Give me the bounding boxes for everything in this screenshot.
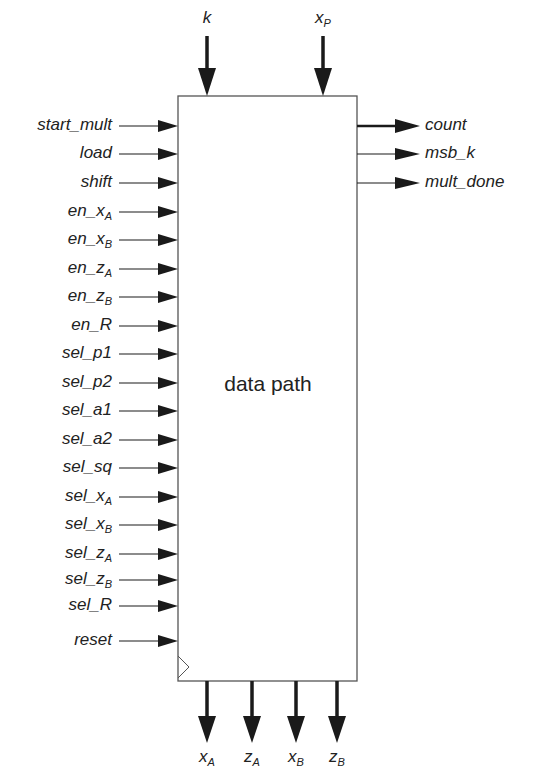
output-label: mult_done xyxy=(425,172,504,192)
arrow-down-icon xyxy=(198,716,216,743)
input-label: en_zB xyxy=(0,286,112,311)
arrow-right-icon xyxy=(158,462,178,474)
arrow-down-icon xyxy=(314,68,332,96)
arrow-right-icon xyxy=(158,600,178,612)
arrow-right-icon xyxy=(158,263,178,275)
input-label: load xyxy=(0,143,112,163)
arrow-right-icon xyxy=(395,148,420,160)
signal-name: start_mult xyxy=(37,115,112,134)
input-label: shift xyxy=(0,172,112,192)
signal-name: reset xyxy=(74,630,112,649)
arrow-right-icon xyxy=(158,574,178,586)
arrow-right-icon xyxy=(158,177,178,189)
input-label: reset xyxy=(0,630,112,650)
signal-name: x xyxy=(315,8,324,27)
signal-subscript: A xyxy=(105,495,112,507)
signal-name: z xyxy=(329,747,338,766)
signal-name: en_z xyxy=(68,286,105,305)
arrow-right-icon xyxy=(158,291,178,303)
signal-name: load xyxy=(80,143,112,162)
arrow-down-icon xyxy=(287,716,305,743)
arrow-right-icon xyxy=(158,519,178,531)
block-title: data path xyxy=(178,372,358,396)
input-label: sel_xB xyxy=(0,514,112,539)
arrow-down-icon xyxy=(243,716,261,743)
signal-name: sel_p2 xyxy=(62,372,112,391)
input-label: sel_zA xyxy=(0,543,112,568)
signal-name: sel_a2 xyxy=(62,429,112,448)
signal-name: count xyxy=(425,115,467,134)
input-label: sel_p2 xyxy=(0,372,112,392)
signal-name: en_x xyxy=(68,229,105,248)
arrow-down-icon xyxy=(198,68,216,96)
input-label: en_xB xyxy=(0,229,112,254)
output-label: msb_k xyxy=(425,143,475,163)
input-label: sel_a1 xyxy=(0,400,112,420)
input-label: sel_zB xyxy=(0,569,112,594)
input-label: sel_p1 xyxy=(0,343,112,363)
signal-subscript: B xyxy=(105,295,112,307)
input-label: en_xA xyxy=(0,201,112,226)
input-label: sel_R xyxy=(0,595,112,615)
arrow-right-icon xyxy=(158,548,178,560)
signal-name: sel_z xyxy=(65,569,105,588)
signal-name: sel_sq xyxy=(63,457,112,476)
signal-name: sel_R xyxy=(69,595,112,614)
signal-name: sel_x xyxy=(65,486,105,505)
signal-name: en_z xyxy=(68,258,105,277)
signal-subscript: B xyxy=(297,756,304,768)
signal-name: sel_z xyxy=(65,543,105,562)
arrow-right-icon xyxy=(158,377,178,389)
top-input-label: xP xyxy=(293,8,353,33)
signal-name: k xyxy=(203,8,212,27)
signal-name: en_x xyxy=(68,201,105,220)
signal-subscript: A xyxy=(105,210,112,222)
arrow-right-icon xyxy=(158,348,178,360)
signal-name: sel_a1 xyxy=(62,400,112,419)
signal-subscript: B xyxy=(338,756,345,768)
signal-subscript: B xyxy=(105,523,112,535)
arrow-right-icon xyxy=(158,635,178,647)
signal-name: shift xyxy=(81,172,112,191)
signal-name: mult_done xyxy=(425,172,504,191)
signal-name: z xyxy=(244,747,253,766)
signal-subscript: B xyxy=(105,578,112,590)
signal-subscript: A xyxy=(105,267,112,279)
arrow-right-icon xyxy=(158,148,178,160)
arrow-right-icon xyxy=(158,320,178,332)
input-label: en_R xyxy=(0,315,112,335)
top-input-label: k xyxy=(177,8,237,28)
arrow-right-icon xyxy=(395,177,420,189)
arrow-right-icon xyxy=(158,434,178,446)
arrow-down-icon xyxy=(328,716,346,743)
signal-subscript: P xyxy=(324,17,331,29)
arrow-right-icon xyxy=(158,234,178,246)
signal-name: sel_p1 xyxy=(62,343,112,362)
input-label: sel_xA xyxy=(0,486,112,511)
arrow-right-icon xyxy=(158,405,178,417)
arrow-right-icon xyxy=(158,120,178,132)
signal-subscript: A xyxy=(208,756,215,768)
input-label: start_mult xyxy=(0,115,112,135)
arrow-right-icon xyxy=(158,206,178,218)
arrow-right-icon xyxy=(395,119,420,133)
signal-subscript: B xyxy=(105,238,112,250)
input-label: sel_sq xyxy=(0,457,112,477)
signal-name: x xyxy=(199,747,208,766)
signal-name: sel_x xyxy=(65,514,105,533)
signal-name: msb_k xyxy=(425,143,475,162)
input-label: en_zA xyxy=(0,258,112,283)
signal-name: en_R xyxy=(71,315,112,334)
input-label: sel_a2 xyxy=(0,429,112,449)
signal-subscript: A xyxy=(253,756,260,768)
signal-subscript: A xyxy=(105,552,112,564)
arrow-right-icon xyxy=(158,491,178,503)
bottom-output-label: zB xyxy=(307,747,367,772)
signal-name: x xyxy=(288,747,297,766)
output-label: count xyxy=(425,115,467,135)
